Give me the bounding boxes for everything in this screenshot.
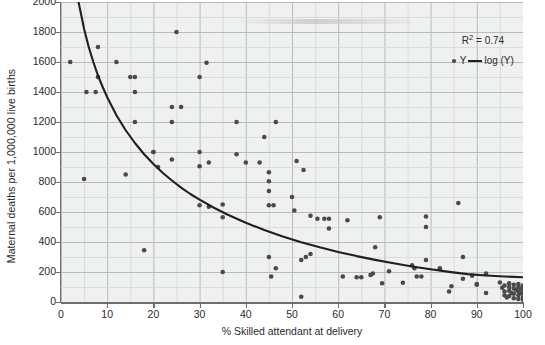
data-point <box>419 274 424 279</box>
data-point <box>207 160 212 165</box>
data-point <box>387 269 392 274</box>
x-axis-title: % Skilled attendant at delivery <box>61 325 523 337</box>
data-point <box>267 255 272 260</box>
data-point <box>301 168 306 173</box>
data-point <box>114 60 119 65</box>
data-point <box>197 164 202 169</box>
y-tick-label: 1800 <box>18 26 56 36</box>
data-point <box>267 189 272 194</box>
data-point <box>327 226 332 231</box>
data-point <box>294 159 299 164</box>
data-point <box>142 248 147 253</box>
data-point <box>197 75 202 80</box>
data-point <box>174 30 179 35</box>
data-point <box>170 105 175 110</box>
data-point <box>244 160 249 165</box>
legend-entry-row: Y log (Y) <box>438 55 528 66</box>
data-point <box>197 203 202 208</box>
x-tick-label: 60 <box>318 308 358 320</box>
x-tick-label: 10 <box>87 308 127 320</box>
data-point <box>267 170 272 175</box>
y-tick-label: 1600 <box>18 56 56 66</box>
y-axis-tick-labels: 0200400600800100012001400160018002000 <box>16 0 56 345</box>
data-point <box>377 215 382 220</box>
data-point <box>424 214 429 219</box>
data-point <box>133 90 138 95</box>
data-point <box>133 75 138 80</box>
data-point <box>290 195 295 200</box>
y-tick-label: 1400 <box>18 86 56 96</box>
data-point <box>68 60 73 65</box>
data-point <box>308 213 313 218</box>
data-point <box>498 280 503 285</box>
data-point <box>484 291 489 296</box>
data-point <box>502 283 507 288</box>
data-point <box>123 172 128 177</box>
data-point <box>299 294 304 299</box>
x-tick-label: 90 <box>457 308 497 320</box>
data-point <box>170 120 175 125</box>
data-point <box>447 289 452 294</box>
data-point <box>424 258 429 263</box>
data-point <box>274 120 279 125</box>
y-tick-label: 200 <box>18 266 56 276</box>
data-point <box>461 255 466 260</box>
data-point <box>461 276 466 281</box>
y-tick-label: 1000 <box>18 146 56 156</box>
data-point <box>315 216 320 221</box>
y-tick-label: 0 <box>18 296 56 306</box>
data-point <box>359 275 364 280</box>
data-point <box>151 150 156 155</box>
data-point <box>220 202 225 207</box>
y-tick-label: 600 <box>18 206 56 216</box>
data-point <box>354 275 359 280</box>
data-point <box>269 274 274 279</box>
data-point <box>299 258 304 263</box>
y-axis-spine <box>60 2 61 303</box>
data-point <box>516 297 521 302</box>
data-point <box>267 179 272 184</box>
data-point <box>220 215 225 220</box>
data-point <box>271 203 276 208</box>
x-tick-label: 30 <box>180 308 220 320</box>
x-axis-tick-labels: 0102030405060708090100 <box>0 308 545 322</box>
data-point <box>424 225 429 230</box>
data-point <box>197 150 202 155</box>
data-point <box>93 90 98 95</box>
data-point <box>371 271 376 276</box>
x-tick-label: 40 <box>226 308 266 320</box>
x-tick-label: 70 <box>364 308 404 320</box>
scatter-points <box>68 30 523 302</box>
data-point <box>414 274 419 279</box>
scatter-chart-figure: Maternal deaths per 1,000,000 live birth… <box>0 0 545 345</box>
legend-line-icon <box>468 60 482 62</box>
legend-line-label: log (Y) <box>484 55 513 66</box>
data-point <box>234 152 239 157</box>
x-tick-label: 50 <box>272 308 312 320</box>
y-tick-label: 1200 <box>18 116 56 126</box>
data-point <box>449 284 454 289</box>
data-point <box>220 270 225 275</box>
y-tick-label: 400 <box>18 236 56 246</box>
legend: R2 = 0.74 Y log (Y) <box>438 33 528 66</box>
data-point <box>373 245 378 250</box>
data-point <box>170 157 175 162</box>
x-tick-label: 0 <box>41 308 81 320</box>
data-point <box>234 120 239 125</box>
data-point <box>475 282 480 287</box>
legend-scatter-label: Y <box>460 55 467 66</box>
x-tick-label: 20 <box>133 308 173 320</box>
data-point <box>128 75 133 80</box>
data-point <box>204 60 209 65</box>
data-point <box>82 177 87 182</box>
data-point <box>456 201 461 206</box>
data-point <box>308 252 313 257</box>
legend-marker-icon <box>452 59 456 63</box>
data-point <box>257 160 262 165</box>
data-point <box>84 90 89 95</box>
data-point <box>401 281 406 286</box>
y-tick-label: 2000 <box>18 0 56 6</box>
data-point <box>345 218 350 223</box>
data-point <box>267 203 272 208</box>
data-point <box>380 281 385 286</box>
